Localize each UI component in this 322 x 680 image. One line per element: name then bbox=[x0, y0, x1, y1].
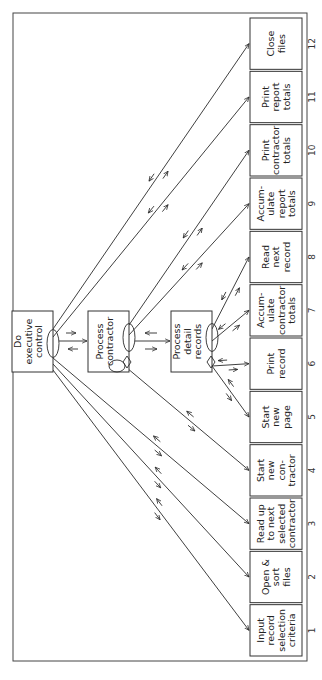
module-number: 5 bbox=[307, 414, 317, 420]
module-number: 11 bbox=[307, 91, 317, 102]
module-label: Printrecord bbox=[265, 348, 287, 378]
flow-arrow bbox=[218, 360, 227, 361]
module-number: 9 bbox=[307, 201, 317, 207]
flow-arrow bbox=[157, 499, 162, 506]
module-number: 2 bbox=[307, 574, 317, 580]
call-line-2 bbox=[53, 364, 249, 577]
flow-arrow bbox=[153, 436, 160, 442]
flow-arrow bbox=[187, 411, 194, 417]
module-label: Startnewpage bbox=[260, 405, 292, 429]
module-number: 12 bbox=[307, 38, 317, 49]
flow-arrow bbox=[155, 450, 162, 456]
module-number: 8 bbox=[307, 254, 317, 260]
module-number: 1 bbox=[307, 627, 317, 633]
flow-arrow bbox=[218, 324, 225, 330]
module-label: Closefiles bbox=[265, 31, 287, 57]
flow-arrow bbox=[155, 481, 161, 488]
call-line-11 bbox=[53, 97, 249, 337]
module-number: 6 bbox=[307, 361, 317, 367]
flow-arrow bbox=[226, 393, 231, 400]
call-line-5 bbox=[212, 366, 249, 417]
connections bbox=[53, 44, 249, 631]
flow-arrow bbox=[155, 513, 160, 520]
flow-arrow bbox=[228, 379, 233, 386]
flow-arrow bbox=[162, 205, 168, 212]
call-line-6 bbox=[212, 364, 249, 366]
flow-arrow bbox=[222, 292, 226, 300]
control-label: Processdetailrecords bbox=[171, 323, 203, 359]
module-number: 4 bbox=[307, 467, 317, 473]
flow-arrow bbox=[188, 425, 195, 431]
flow-arrow bbox=[182, 263, 188, 270]
flow-arrow bbox=[229, 369, 238, 370]
module-number: 3 bbox=[307, 521, 317, 527]
module-label: Printreporttotals bbox=[260, 82, 292, 111]
flow-arrow bbox=[163, 171, 168, 178]
control-exec: Doexecutivecontrol bbox=[12, 311, 59, 372]
module-label: Read upto nextselectedcontractor bbox=[255, 499, 297, 548]
flow-arrow bbox=[197, 228, 202, 235]
control-label: Processcontractor bbox=[94, 317, 116, 366]
flow-arrow bbox=[155, 467, 161, 474]
control-contractor: Processcontractor bbox=[88, 311, 135, 372]
flow-arrow bbox=[196, 263, 202, 270]
flow-arrow bbox=[149, 174, 154, 181]
call-line-1 bbox=[53, 370, 249, 630]
control-detail: Processdetailrecords bbox=[171, 311, 218, 372]
flow-arrow bbox=[183, 231, 188, 238]
call-line-12 bbox=[53, 44, 249, 329]
control-modules: DoexecutivecontrolProcesscontractorProce… bbox=[12, 311, 218, 372]
module-label: Accum-ulatereporttotals bbox=[255, 186, 297, 221]
flow-arrow bbox=[233, 325, 240, 331]
module-number: 10 bbox=[307, 144, 317, 156]
call-line-3 bbox=[53, 358, 249, 524]
structure-chart: DoexecutivecontrolProcesscontractorProce… bbox=[0, 0, 322, 680]
flow-arrow bbox=[148, 206, 154, 213]
flow-arrow bbox=[235, 288, 239, 296]
call-line-8 bbox=[212, 257, 249, 329]
call-line-10 bbox=[129, 150, 249, 325]
module-number: 7 bbox=[307, 307, 317, 313]
